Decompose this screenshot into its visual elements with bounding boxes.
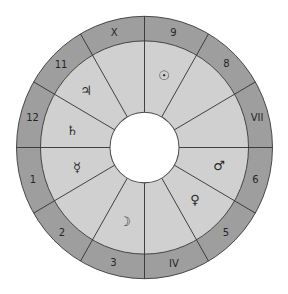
- moon-icon: ☽: [119, 214, 131, 229]
- house-label-7: VII: [251, 112, 264, 123]
- house-label-1: 1: [30, 174, 36, 185]
- house-label-4: IV: [169, 258, 179, 269]
- center-circle: [110, 112, 179, 183]
- mercury-icon: ☿: [73, 160, 81, 175]
- house-label-3: 3: [110, 257, 116, 268]
- house-label-5: 5: [223, 227, 229, 238]
- house-label-12: 12: [26, 112, 39, 123]
- house-label-6: 6: [252, 174, 258, 185]
- mars-icon: ♂: [213, 158, 225, 173]
- venus-icon: ♀: [190, 192, 200, 207]
- jupiter-icon: ♃: [80, 83, 92, 98]
- house-label-9: 9: [170, 27, 176, 38]
- saturn-icon: ♄: [66, 123, 78, 138]
- wheel-geometry: [17, 16, 273, 278]
- sun-icon: ☉: [158, 68, 170, 83]
- house-wheel: X 9 8 VII 6 5 IV 3 2 1 12 11 ☉ ♃ ♄ ☿ ☽ ♀…: [0, 0, 288, 294]
- house-label-11: 11: [55, 59, 68, 70]
- house-label-8: 8: [223, 58, 229, 69]
- house-label-2: 2: [59, 227, 65, 238]
- house-label-10: X: [111, 27, 118, 38]
